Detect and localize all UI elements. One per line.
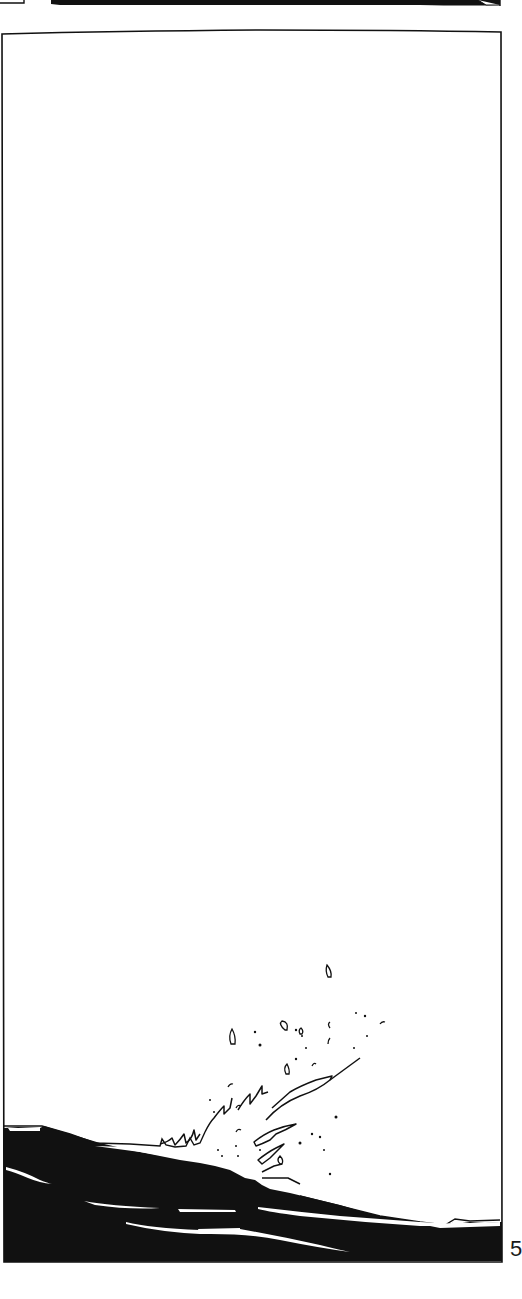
page-number: 5 [510, 1236, 522, 1262]
comic-page: 5 [0, 0, 522, 1299]
previous-panel-dark-sliver [51, 0, 500, 6]
main-panel [2, 30, 502, 1262]
previous-panel-left-sliver [0, 0, 24, 3]
comic-artwork [0, 0, 522, 1299]
